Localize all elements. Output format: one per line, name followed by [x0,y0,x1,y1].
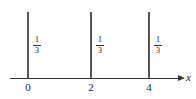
stem-2 [90,12,92,78]
tick-label-4: 4 [143,81,155,93]
stem-4-value: 1 3 [154,36,162,55]
x-axis-label: x [186,71,191,83]
stem-0 [27,12,29,78]
tick-label-0: 0 [22,81,34,93]
x-axis-line [10,78,180,79]
tick-label-2: 2 [85,81,97,93]
stem-0-value: 1 3 [33,36,41,55]
stem-2-value: 1 3 [96,36,104,55]
stem-4 [148,12,150,78]
x-axis-arrow-icon [178,75,185,81]
